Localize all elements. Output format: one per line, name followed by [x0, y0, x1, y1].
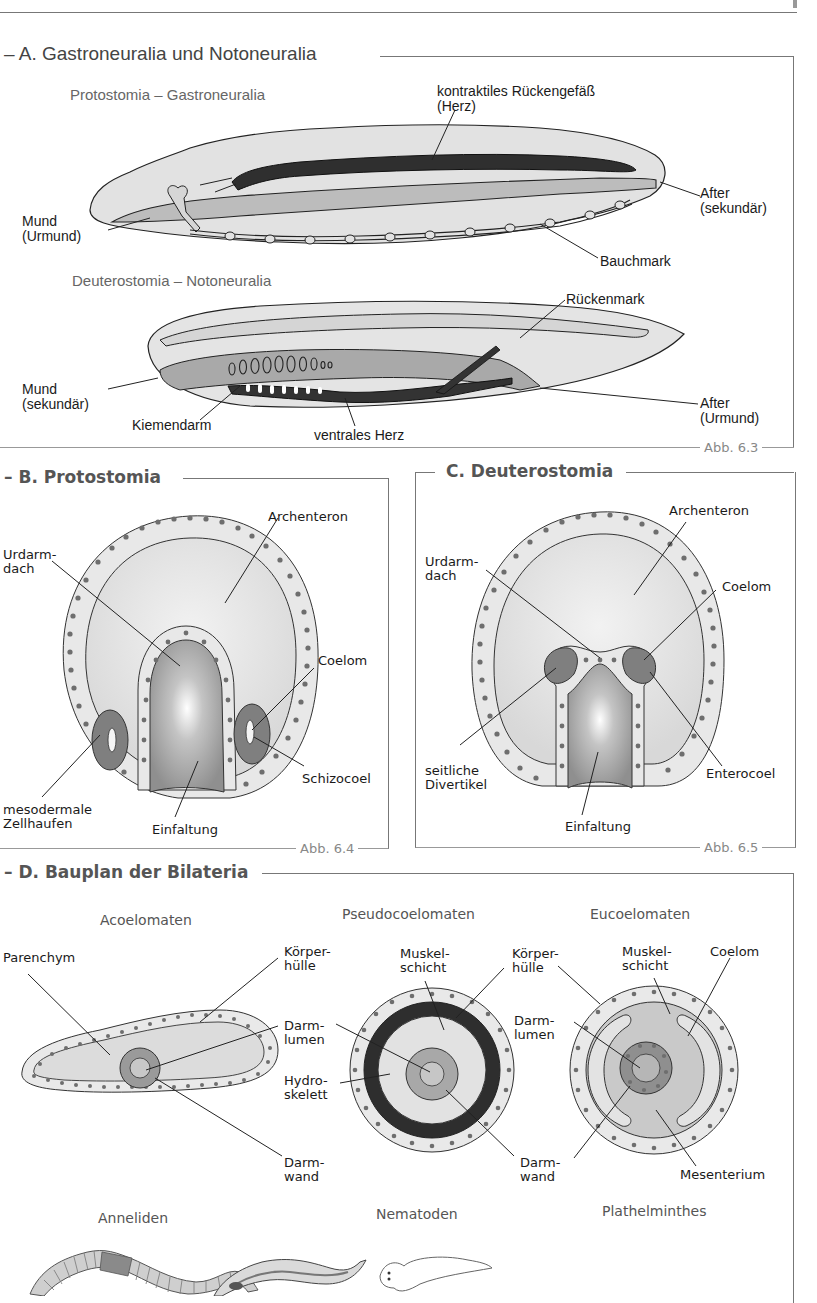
label-d-euco-mesenterium: Mesenterium — [680, 1168, 765, 1182]
label-d-parenchym: Parenchym — [3, 951, 75, 965]
label-d-pseudo-koerperhuelle: Körper- hülle — [512, 947, 559, 975]
pseudocoelomaten-title: Pseudocoelomaten — [342, 906, 475, 922]
label-c-einfaltung: Einfaltung — [565, 820, 631, 834]
section-a-bottomline — [0, 447, 794, 448]
label-d-pseudo-muskelschicht: Muskel- schicht — [400, 947, 450, 975]
figure-label-6-5: Abb. 6.5 — [700, 840, 762, 855]
label-d-euco-muskelschicht: Muskel- schicht — [622, 945, 672, 973]
section-a-frame — [0, 56, 794, 448]
label-b-coelom: Coelom — [318, 654, 367, 668]
example-plathelminthes: Plathelminthes — [602, 1203, 706, 1219]
label-c-enterocoel: Enterocoel — [706, 767, 775, 781]
label-d-acoel-darmlumen: Darm- lumen — [284, 1019, 325, 1047]
figure-label-6-3: Abb. 6.3 — [700, 440, 762, 455]
section-b-title: – B. Protostomia — [0, 467, 169, 487]
label-d-acoel-koerperhuelle: Körper- hülle — [284, 945, 331, 973]
label-d-pseudo-darmwand: Darm- wand — [520, 1156, 560, 1184]
label-b-mesodermale-zellhaufen: mesodermale Zellhaufen — [3, 803, 92, 831]
example-nematoden: Nematoden — [376, 1206, 458, 1222]
label-kontraktiles-rueckengefaess: kontraktiles Rückengefäß (Herz) — [437, 84, 595, 114]
section-c-title: C. Deuterostomia — [438, 461, 621, 481]
label-c-archenteron: Archenteron — [669, 504, 749, 518]
label-b-urdarmdach: Urdarm- dach — [3, 548, 56, 576]
label-mund-urmund: Mund (Urmund) — [22, 214, 81, 244]
label-ventrales-herz: ventrales Herz — [314, 428, 404, 443]
label-c-coelom: Coelom — [722, 580, 771, 594]
acoelomaten-title: Acoelomaten — [100, 912, 192, 928]
example-anneliden: Anneliden — [98, 1210, 168, 1226]
label-b-archenteron: Archenteron — [268, 510, 348, 524]
section-d-frame — [0, 873, 794, 1303]
label-b-schizocoel: Schizocoel — [302, 772, 371, 786]
label-d-pseudo-hydroskelett: Hydro- skelett — [284, 1074, 328, 1102]
protostomia-gastroneuralia-title: Protostomia – Gastroneuralia — [70, 86, 265, 103]
label-after-urmund: After (Urmund) — [700, 396, 759, 426]
section-d-title: – D. Bauplan der Bilateria — [0, 862, 256, 882]
section-a-title: – A. Gastroneuralia und Notoneuralia — [0, 43, 325, 65]
label-d-euco-darmlumen: Darm- lumen — [514, 1014, 555, 1042]
label-rueckenmark: Rückenmark — [566, 292, 645, 307]
label-bauchmark: Bauchmark — [600, 254, 671, 269]
deuterostomia-notoneuralia-title: Deuterostomia – Notoneuralia — [72, 272, 271, 289]
label-d-acoel-darmwand: Darm- wand — [284, 1156, 324, 1184]
label-kiemendarm: Kiemendarm — [132, 418, 211, 433]
label-c-urdarmdach: Urdarm- dach — [425, 555, 478, 583]
section-b-topline — [183, 478, 389, 479]
eucoelomaten-title: Eucoelomaten — [590, 906, 690, 922]
section-c-topline-left — [415, 472, 435, 473]
header-rule-cap — [793, 0, 797, 8]
section-c-topline-right — [626, 472, 794, 473]
figure-label-6-4: Abb. 6.4 — [296, 841, 358, 856]
label-mund-sekundaer: Mund (sekundär) — [22, 382, 89, 412]
section-d-topline — [262, 873, 794, 874]
section-a-topline — [380, 56, 794, 57]
header-rule — [0, 12, 797, 13]
label-after-sekundaer: After (sekundär) — [700, 186, 767, 216]
label-b-einfaltung: Einfaltung — [152, 823, 218, 837]
label-d-euco-coelom: Coelom — [710, 945, 759, 959]
label-c-seitliche-divertikel: seitliche Divertikel — [425, 764, 487, 792]
